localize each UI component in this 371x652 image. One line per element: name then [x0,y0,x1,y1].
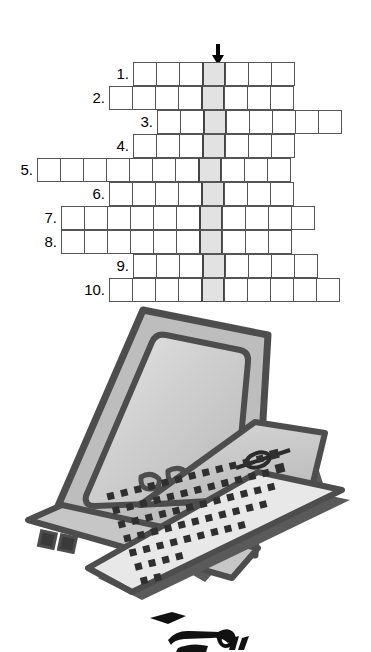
crossword-cell[interactable] [249,110,273,134]
crossword-cell[interactable] [157,110,181,134]
bottom-clipart-svg [0,612,371,652]
crossword-cell-highlighted[interactable] [202,254,226,278]
crossword-cell[interactable] [176,230,200,254]
crossword-cell[interactable] [176,206,200,230]
crossword-cell[interactable] [178,86,202,110]
crossword-cell[interactable] [316,278,340,302]
crossword-cell-highlighted[interactable] [201,278,225,302]
crossword-cell[interactable] [271,62,295,86]
crossword-cell-highlighted[interactable] [199,230,223,254]
crossword-cell[interactable] [109,278,133,302]
crossword-cell[interactable] [244,158,268,182]
crossword-row-1 [133,62,294,86]
crossword-cell[interactable] [270,278,294,302]
crossword-cell[interactable] [225,134,249,158]
crossword-cell-highlighted[interactable] [202,134,226,158]
crossword-cell[interactable] [132,182,156,206]
crossword-cell[interactable] [247,86,271,110]
crossword-cell[interactable] [107,230,131,254]
crossword-cell[interactable] [109,86,133,110]
crossword-cell[interactable] [133,254,157,278]
crossword-row-3 [157,110,341,134]
crossword-cell[interactable] [270,86,294,110]
crossword-cell[interactable] [248,254,272,278]
clue-number-8: 8. [33,230,57,254]
crossword-cell[interactable] [248,134,272,158]
crossword-cell[interactable] [130,230,154,254]
crossword-cell-highlighted[interactable] [202,62,226,86]
crossword-cell[interactable] [107,206,131,230]
crossword-cell[interactable] [130,206,154,230]
crossword-cell[interactable] [247,182,271,206]
crossword-cell[interactable] [129,158,153,182]
crossword-cell[interactable] [155,182,179,206]
crossword-cell[interactable] [156,134,180,158]
crossword-cell[interactable] [153,230,177,254]
crossword-cell[interactable] [267,158,291,182]
crossword-cell[interactable] [268,230,292,254]
crossword-cell[interactable] [247,278,271,302]
crossword-cell[interactable] [291,206,315,230]
crossword-cell[interactable] [248,62,272,86]
crossword-cell[interactable] [155,86,179,110]
crossword-cell[interactable] [153,206,177,230]
crossword-cell[interactable] [156,254,180,278]
crossword-cell[interactable] [271,254,295,278]
crossword-cell-highlighted[interactable] [203,110,227,134]
crossword-cell[interactable] [226,110,250,134]
crossword-cell[interactable] [179,134,203,158]
crossword-cell-highlighted[interactable] [201,182,225,206]
crossword-cell[interactable] [294,254,318,278]
crossword-row-4 [133,134,294,158]
crossword-cell-highlighted[interactable] [199,206,223,230]
clue-number-5: 5. [9,158,33,182]
crossword-cell[interactable] [133,62,157,86]
crossword-cell[interactable] [245,206,269,230]
crossword-cell[interactable] [180,110,204,134]
crossword-cell[interactable] [293,278,317,302]
crossword-cell[interactable] [222,230,246,254]
crossword-cell[interactable] [225,62,249,86]
crossword-cell-highlighted[interactable] [201,86,225,110]
clue-number-9: 9. [105,254,129,278]
crossword-cell[interactable] [178,278,202,302]
crossword-cell[interactable] [270,182,294,206]
crossword-cell[interactable] [224,278,248,302]
crossword-cell[interactable] [132,278,156,302]
crossword-cell-highlighted[interactable] [198,158,222,182]
clue-number-7: 7. [33,206,57,230]
clue-number-3: 3. [129,110,153,134]
crossword-cell[interactable] [271,134,295,158]
crossword-cell[interactable] [61,206,85,230]
crossword-cell[interactable] [222,206,246,230]
crossword-cell[interactable] [106,158,130,182]
crossword-cell[interactable] [84,230,108,254]
crossword-cell[interactable] [156,62,180,86]
crossword-cell[interactable] [155,278,179,302]
crossword-row-5 [37,158,290,182]
crossword-cell[interactable] [175,158,199,182]
crossword-cell[interactable] [318,110,342,134]
crossword-cell[interactable] [61,230,85,254]
crossword-cell[interactable] [37,158,61,182]
crossword-cell[interactable] [272,110,296,134]
crossword-cell[interactable] [295,110,319,134]
crossword-cell[interactable] [133,134,157,158]
clue-number-1: 1. [105,62,129,86]
crossword-cell[interactable] [245,230,269,254]
crossword-cell[interactable] [152,158,176,182]
crossword-cell[interactable] [83,158,107,182]
crossword-cell[interactable] [224,86,248,110]
crossword-cell[interactable] [60,158,84,182]
crossword-cell[interactable] [109,182,133,206]
crossword-cell[interactable] [84,206,108,230]
crossword-cell[interactable] [179,62,203,86]
crossword-cell[interactable] [221,158,245,182]
crossword-cell[interactable] [132,86,156,110]
crossword-cell[interactable] [268,206,292,230]
clue-number-6: 6. [81,182,105,206]
crossword-cell[interactable] [225,254,249,278]
crossword-cell[interactable] [179,254,203,278]
crossword-cell[interactable] [224,182,248,206]
crossword-cell[interactable] [178,182,202,206]
